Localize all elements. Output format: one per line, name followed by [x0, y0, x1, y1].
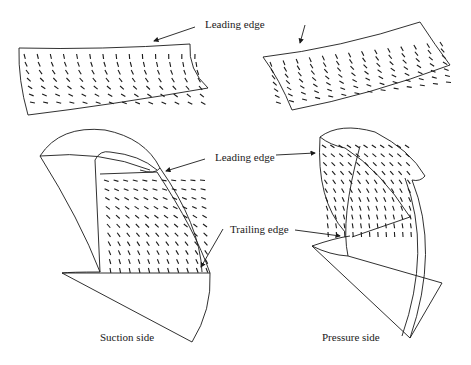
label-suction-side: Suction side	[100, 331, 154, 343]
diagram-canvas	[0, 0, 471, 365]
arrow-leading-edge-top-left	[154, 27, 195, 41]
label-leading-edge-mid: Leading edge	[215, 151, 275, 163]
arrow-leading-edge-right	[276, 153, 315, 155]
pressure-side-blade	[312, 128, 442, 338]
suction-side-blade	[40, 129, 210, 342]
arrow-trailing-edge-right	[295, 230, 340, 236]
arrow-leading-edge-left	[166, 159, 205, 171]
label-pressure-side: Pressure side	[322, 331, 380, 343]
pressure-surface-panel	[263, 22, 451, 110]
suction-surface-panel	[19, 44, 208, 115]
arrow-trailing-edge-left	[201, 229, 223, 267]
label-trailing-edge: Trailing edge	[230, 223, 289, 235]
label-leading-edge-top: Leading edge	[205, 18, 265, 30]
blade-flow-diagram: Leading edge Leading edge Trailing edge …	[0, 0, 471, 365]
arrow-leading-edge-top-right	[300, 25, 305, 43]
